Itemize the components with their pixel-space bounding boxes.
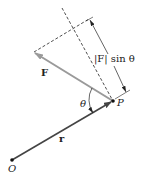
dimension-tick-top xyxy=(86,17,93,21)
origin-point xyxy=(10,158,14,162)
moment-diagram: F r θ P O |F| sin θ xyxy=(0,0,147,183)
origin-label: O xyxy=(8,163,16,174)
position-vector xyxy=(12,102,111,160)
position-label: r xyxy=(59,133,65,144)
diagram-canvas: F r θ P O |F| sin θ xyxy=(0,0,147,183)
force-label: F xyxy=(41,67,48,78)
angle-arc xyxy=(89,88,93,113)
point-p-label: P xyxy=(116,97,124,108)
dimension-line xyxy=(90,20,108,54)
perpendicular-component-label: |F| sin θ xyxy=(94,53,135,65)
point-p xyxy=(111,99,115,103)
perpendicular-dashed-line xyxy=(34,19,89,52)
angle-label: θ xyxy=(80,98,86,109)
dimension-line-lower xyxy=(114,66,126,92)
